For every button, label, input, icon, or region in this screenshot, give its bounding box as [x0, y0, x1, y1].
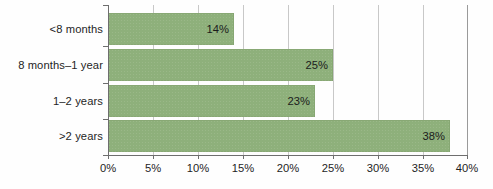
x-axis-tick: [243, 155, 244, 159]
bar-value-label: 38%: [423, 120, 445, 152]
x-axis-tick: [153, 155, 154, 159]
bar-segment: 38%: [108, 120, 450, 152]
x-axis-tick: [198, 155, 199, 159]
x-axis-tick-label-30: 30%: [367, 162, 389, 174]
horizontal-bar-chart: <8 months 8 months–1 year 1–2 years >2 y…: [0, 0, 493, 189]
bar-segment: 23%: [108, 85, 315, 117]
bar-row: 23%: [108, 84, 468, 120]
x-axis-tick: [378, 155, 379, 159]
x-axis-tick-label-0: 0%: [100, 162, 116, 174]
category-label-0: <8 months: [50, 12, 103, 48]
bar-row: 14%: [108, 12, 468, 48]
bar-row: 38%: [108, 119, 468, 155]
category-label-1: 8 months–1 year: [18, 48, 103, 84]
x-axis-tick: [333, 155, 334, 159]
y-axis-tick: [103, 119, 108, 120]
x-axis-tick-label-35: 35%: [412, 162, 434, 174]
category-label-3: >2 years: [59, 119, 103, 155]
x-axis-tick-label-5: 5%: [145, 162, 161, 174]
x-axis-tick-label-15: 15%: [232, 162, 254, 174]
x-axis-tick-label-25: 25%: [322, 162, 344, 174]
x-axis-tick: [467, 155, 468, 159]
x-axis-tick-label-10: 10%: [187, 162, 209, 174]
y-axis-tick: [103, 5, 108, 6]
x-axis-tick-label-20: 20%: [277, 162, 299, 174]
y-axis-line: [108, 5, 109, 156]
y-axis-tick: [103, 83, 108, 84]
bar-value-label: 14%: [207, 13, 229, 45]
y-axis-tick: [103, 46, 108, 47]
x-axis-tick: [108, 155, 109, 159]
x-axis-tick-label-40: 40%: [456, 162, 478, 174]
plot-area: 14% 25% 23% 38%: [108, 5, 468, 155]
bar-segment: 25%: [108, 49, 333, 81]
x-axis-tick: [288, 155, 289, 159]
bar-row: 25%: [108, 48, 468, 84]
bar-value-label: 23%: [288, 85, 310, 117]
bar-value-label: 25%: [306, 49, 328, 81]
category-axis-labels: <8 months 8 months–1 year 1–2 years >2 y…: [0, 12, 103, 155]
category-label-2: 1–2 years: [53, 84, 103, 120]
bar-segment: 14%: [108, 13, 234, 45]
x-axis-tick: [423, 155, 424, 159]
